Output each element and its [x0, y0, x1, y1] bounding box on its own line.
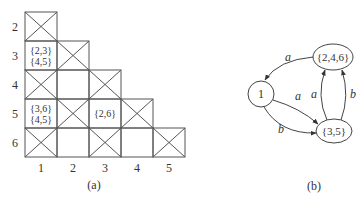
cell-r4-c1: [25, 70, 57, 99]
node-1: 1: [248, 81, 274, 107]
cell-r5-c3-text: {2,6}: [94, 108, 116, 119]
caption-b: (b): [307, 179, 321, 193]
cell-r3-c1-line2: {4,5}: [30, 56, 52, 67]
cell-r4-c2: [57, 70, 89, 99]
cell-r5-c2: [57, 99, 89, 128]
diagram-canvas: {2,3} {4,5} {3,6} {4,5} {2,6} 2 3 4 5 6 …: [0, 0, 363, 202]
edge-35-to-246-b: [341, 70, 346, 120]
cell-r3-c1-line1: {2,3}: [30, 45, 52, 56]
edge-label-1-35-b: b: [278, 122, 284, 136]
node-1-label: 1: [258, 87, 264, 101]
edge-1-to-35-a: [273, 100, 318, 124]
edge-label-246-1: a: [285, 50, 291, 64]
edge-label-1-35-a: a: [295, 89, 301, 103]
cell-r6-c2: [57, 128, 89, 157]
row-label-5: 5: [12, 107, 18, 121]
col-label-3: 3: [102, 161, 108, 175]
cell-r6-c1: [25, 128, 57, 157]
cell-r6-c5: [153, 128, 185, 157]
edge-label-35-246-b: b: [350, 87, 356, 101]
row-label-3: 3: [12, 49, 18, 63]
row-label-2: 2: [12, 20, 18, 34]
node-246: {2,4,6}: [313, 44, 353, 70]
node-35: {3,5}: [316, 119, 352, 143]
cell-r2-c1: [25, 12, 57, 41]
edge-label-35-246-a: a: [311, 87, 317, 101]
cell-r4-c3: [89, 70, 121, 99]
cell-r6-c3: [89, 128, 121, 157]
col-label-5: 5: [166, 161, 172, 175]
edge-1-to-35-b: [264, 107, 316, 133]
state-graph: a a b a b 1 {2,4,6} {3,5}: [248, 44, 356, 143]
minimization-table: [25, 12, 185, 157]
cell-r6-c4: [121, 128, 153, 157]
cell-r5-c4: [121, 99, 153, 128]
col-label-2: 2: [70, 161, 76, 175]
cell-r5-c1-line1: {3,6}: [30, 103, 52, 114]
cell-r5-c1-line2: {4,5}: [30, 114, 52, 125]
row-label-6: 6: [12, 136, 18, 150]
col-label-4: 4: [134, 161, 140, 175]
cell-r3-c2: [57, 41, 89, 70]
col-label-1: 1: [38, 161, 44, 175]
row-label-4: 4: [12, 78, 18, 92]
caption-a: (a): [87, 178, 100, 192]
node-35-label: {3,5}: [322, 125, 346, 137]
edge-35-to-246-a: [321, 70, 327, 120]
node-246-label: {2,4,6}: [317, 51, 350, 63]
